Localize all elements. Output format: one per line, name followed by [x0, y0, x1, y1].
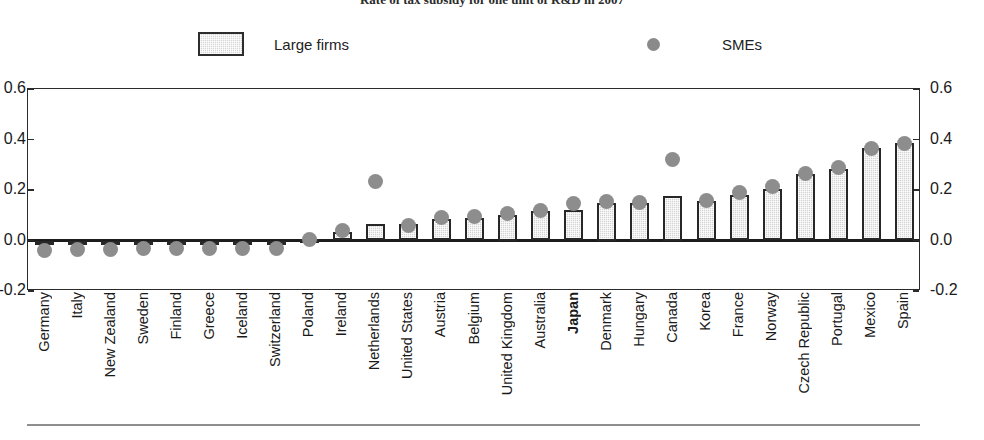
y-axis-label-right: -0.2 — [930, 281, 974, 299]
y-tick-left — [28, 88, 34, 90]
y-axis-label-left: 0.6 — [0, 79, 26, 97]
y-axis-label-right: 0.4 — [930, 130, 974, 148]
dot-smes — [103, 242, 118, 257]
y-axis-label-left: 0.4 — [0, 130, 26, 148]
dot-smes — [533, 203, 548, 218]
bar-large-firms — [763, 189, 782, 241]
dot-smes — [169, 241, 184, 256]
category-label: Germany — [36, 292, 52, 352]
category-label: Australia — [532, 292, 548, 348]
plot-inner — [28, 89, 919, 289]
y-axis-label-right: 0.6 — [930, 79, 974, 97]
category-label: Czech Republic — [796, 292, 812, 394]
bar-large-firms — [895, 143, 914, 240]
dot-smes — [732, 185, 747, 200]
bar-large-firms — [796, 174, 815, 241]
legend-swatch-icon — [198, 32, 244, 56]
bar-large-firms — [663, 196, 682, 240]
y-axis-label-right: 0.2 — [930, 180, 974, 198]
y-tick-left — [28, 189, 34, 191]
category-label: United States — [399, 292, 415, 379]
category-label: Spain — [895, 292, 911, 329]
category-label: Portugal — [829, 292, 845, 346]
dot-smes — [401, 218, 416, 233]
category-label: Mexico — [862, 292, 878, 338]
bar-large-firms — [564, 210, 583, 240]
category-label: Korea — [697, 292, 713, 331]
dot-smes — [136, 241, 151, 256]
legend-item-large-firms: Large firms — [198, 30, 349, 58]
dot-smes — [70, 242, 85, 257]
category-label: Netherlands — [366, 292, 382, 370]
category-label: Iceland — [234, 292, 250, 339]
category-axis-labels: GermanyItalyNew ZealandSwedenFinlandGree… — [27, 292, 920, 440]
dot-smes — [37, 243, 52, 258]
category-label: Norway — [763, 292, 779, 341]
plot-area — [27, 88, 920, 290]
bottom-rule — [27, 424, 920, 426]
y-tick-right — [913, 88, 919, 90]
dot-smes — [665, 152, 680, 167]
category-label: Switzerland — [267, 292, 283, 367]
dot-smes — [269, 241, 284, 256]
legend-label-smes: SMEs — [722, 36, 762, 53]
bar-large-firms — [366, 224, 385, 240]
dot-smes — [335, 223, 350, 238]
y-tick-right — [913, 139, 919, 141]
category-label: Denmark — [598, 292, 614, 351]
y-tick-left — [28, 139, 34, 141]
dot-smes — [798, 166, 813, 181]
dot-smes — [202, 241, 217, 256]
chart-container: Rate of tax subsidy for one unit of R&D … — [0, 0, 984, 440]
dot-smes — [765, 179, 780, 194]
category-label: Japan — [565, 292, 581, 334]
y-axis-label-left: -0.2 — [0, 281, 26, 299]
category-label: Italy — [69, 292, 85, 319]
dot-smes — [831, 160, 846, 175]
category-label: Sweden — [135, 292, 151, 344]
legend-dot-icon — [647, 38, 660, 51]
bar-large-firms — [730, 195, 749, 240]
chart-legend: Large firms SMEs — [0, 30, 984, 58]
legend-label-large-firms: Large firms — [274, 36, 349, 53]
dot-smes — [699, 193, 714, 208]
category-label: France — [730, 292, 746, 337]
dot-smes — [302, 232, 317, 247]
category-label: New Zealand — [102, 292, 118, 377]
category-label: Hungary — [631, 292, 647, 347]
y-tick-left — [28, 240, 34, 242]
y-axis-label-left: 0.2 — [0, 180, 26, 198]
dot-smes — [467, 209, 482, 224]
chart-title: Rate of tax subsidy for one unit of R&D … — [0, 0, 984, 8]
dot-smes — [368, 174, 383, 189]
y-axis-label-right: 0.0 — [930, 231, 974, 249]
category-label: Poland — [300, 292, 316, 337]
category-label: Ireland — [333, 292, 349, 336]
category-label: Finland — [168, 292, 184, 340]
dot-smes — [897, 136, 912, 151]
dot-smes — [864, 141, 879, 156]
category-label: Greece — [201, 292, 217, 340]
dot-smes — [235, 241, 250, 256]
legend-item-smes: SMEs — [633, 30, 762, 58]
y-axis-label-left: 0.0 — [0, 231, 26, 249]
bar-large-firms — [829, 169, 848, 241]
category-label: Belgium — [466, 292, 482, 344]
category-label: Austria — [432, 292, 448, 337]
category-label: United Kingdom — [499, 292, 515, 395]
bar-large-firms — [862, 148, 881, 240]
dot-smes — [566, 196, 581, 211]
category-label: Canada — [664, 292, 680, 343]
